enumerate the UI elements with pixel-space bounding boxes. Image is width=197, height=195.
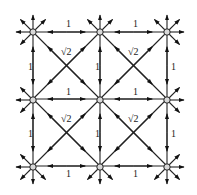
edge-label-unit: 1 <box>133 168 138 179</box>
node-n10 <box>30 97 36 103</box>
node-n02 <box>164 29 170 35</box>
edge-label-sqrt2: √2 <box>61 113 72 124</box>
edge-label-sqrt2: √2 <box>61 46 72 57</box>
edge-label-unit: 1 <box>66 168 71 179</box>
node-n12 <box>164 97 170 103</box>
edge-label-unit: 1 <box>66 86 71 97</box>
edge-label-unit: 1 <box>133 86 138 97</box>
node-n01 <box>97 29 103 35</box>
node-n20 <box>30 164 36 170</box>
arrowhead-icon <box>115 66 134 85</box>
edge-label-unit: 1 <box>171 61 176 72</box>
arrowhead-icon <box>67 133 86 152</box>
edge-label-unit: 1 <box>28 61 33 72</box>
edge-label-sqrt2: √2 <box>128 46 139 57</box>
edge-label-unit: 1 <box>28 128 33 139</box>
node-n22 <box>164 164 170 170</box>
arrowhead-icon <box>48 133 67 152</box>
node-n21 <box>97 164 103 170</box>
arrowhead-icon <box>134 133 153 152</box>
arrowhead-icon <box>115 133 134 152</box>
edge-label-sqrt2: √2 <box>128 113 139 124</box>
arrowhead-icon <box>48 66 67 85</box>
edge-label-unit: 1 <box>66 18 71 29</box>
edge-label-unit: 1 <box>95 61 100 72</box>
lattice-diagram: 111111111111√2√2√2√2 <box>0 0 197 195</box>
edge-label-unit: 1 <box>133 18 138 29</box>
node-n11 <box>97 97 103 103</box>
edge-label-unit: 1 <box>171 128 176 139</box>
arrowhead-icon <box>67 66 86 85</box>
edge-label-unit: 1 <box>95 128 100 139</box>
node-n00 <box>30 29 36 35</box>
arrowhead-icon <box>134 66 153 85</box>
